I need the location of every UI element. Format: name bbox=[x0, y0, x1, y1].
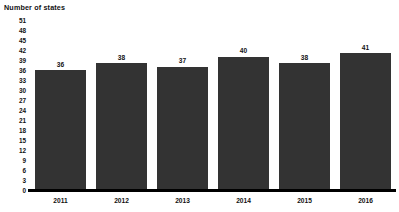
x-tick-label: 2016 bbox=[335, 196, 396, 205]
chart-title: Number of states bbox=[4, 3, 65, 12]
x-axis-line bbox=[28, 189, 396, 192]
bar-value-label: 38 bbox=[96, 54, 146, 62]
bar-value-label: 41 bbox=[340, 44, 390, 52]
y-tick-label: 45 bbox=[19, 37, 26, 44]
bar-value-label: 36 bbox=[35, 61, 85, 69]
y-tick-label: 9 bbox=[22, 157, 26, 164]
y-tick-label: 39 bbox=[19, 57, 26, 64]
bar-value-label: 38 bbox=[279, 54, 329, 62]
x-tick-label: 2014 bbox=[213, 196, 274, 205]
y-tick-label: 30 bbox=[19, 87, 26, 94]
y-axis-tick-labels: 51484542393633302724211815129630 bbox=[0, 20, 26, 190]
y-tick-label: 42 bbox=[19, 47, 26, 54]
bar-2013[interactable]: 37 bbox=[157, 20, 207, 190]
y-tick-label: 21 bbox=[19, 117, 26, 124]
bar-2016[interactable]: 41 bbox=[340, 20, 390, 190]
x-tick-label: 2015 bbox=[274, 196, 335, 205]
bar-rect bbox=[218, 57, 268, 190]
bar-2012[interactable]: 38 bbox=[96, 20, 146, 190]
y-tick-label: 24 bbox=[19, 107, 26, 114]
y-tick-label: 48 bbox=[19, 27, 26, 34]
x-tick-label: 2011 bbox=[30, 196, 91, 205]
bars-layer: 363837403841 bbox=[30, 20, 396, 190]
bar-rect bbox=[340, 53, 390, 190]
x-tick-label: 2012 bbox=[91, 196, 152, 205]
bar-rect bbox=[35, 70, 85, 190]
bar-rect bbox=[279, 63, 329, 190]
bar-rect bbox=[96, 63, 146, 190]
bar-2011[interactable]: 36 bbox=[35, 20, 85, 190]
y-tick-label: 15 bbox=[19, 137, 26, 144]
bar-chart: Number of states 51484542393633302724211… bbox=[0, 0, 399, 212]
y-tick-label: 27 bbox=[19, 97, 26, 104]
y-tick-label: 12 bbox=[19, 147, 26, 154]
bar-2014[interactable]: 40 bbox=[218, 20, 268, 190]
bar-value-label: 37 bbox=[157, 57, 207, 65]
y-tick-label: 3 bbox=[22, 177, 26, 184]
y-tick-label: 0 bbox=[22, 187, 26, 194]
y-tick-label: 51 bbox=[19, 17, 26, 24]
x-tick-label: 2013 bbox=[152, 196, 213, 205]
y-tick-label: 33 bbox=[19, 77, 26, 84]
y-tick-label: 6 bbox=[22, 167, 26, 174]
y-tick-label: 36 bbox=[19, 67, 26, 74]
bar-rect bbox=[157, 67, 207, 190]
x-axis-tick-labels: 201120122013201420152016 bbox=[30, 196, 396, 208]
y-tick-label: 18 bbox=[19, 127, 26, 134]
bar-value-label: 40 bbox=[218, 47, 268, 55]
bar-2015[interactable]: 38 bbox=[279, 20, 329, 190]
